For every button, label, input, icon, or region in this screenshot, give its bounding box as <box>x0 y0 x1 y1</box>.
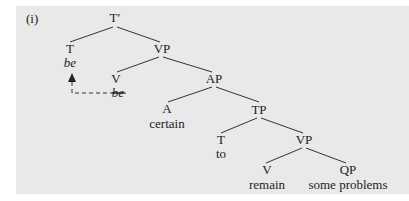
node-qp: QP <box>340 162 357 177</box>
node-t2: T <box>217 132 225 147</box>
node-v2: V <box>262 162 272 177</box>
node-v: V <box>111 71 121 86</box>
word-certain: certain <box>149 116 185 131</box>
example-label: (i) <box>26 11 38 26</box>
word-remain: remain <box>249 177 286 192</box>
node-t-bar: T′ <box>110 10 121 25</box>
node-vp: VP <box>154 41 171 56</box>
word-to: to <box>216 146 226 161</box>
syntax-tree: (i) T′ T be VP V be AP A certain TP T to… <box>0 0 409 201</box>
node-tp: TP <box>251 102 266 117</box>
node-a: A <box>162 101 172 116</box>
word-some-problems: some problems <box>308 177 387 192</box>
arrowhead-icon <box>68 73 76 82</box>
movement-arrow <box>68 73 107 93</box>
node-ap: AP <box>206 71 223 86</box>
node-vp2: VP <box>296 132 313 147</box>
word-be-landing: be <box>64 55 77 70</box>
node-t: T <box>66 41 74 56</box>
